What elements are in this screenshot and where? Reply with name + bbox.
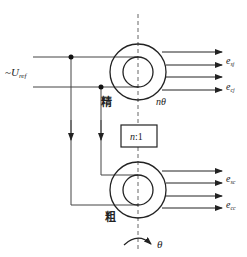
output-e-cc: ecc	[226, 199, 236, 211]
gear-ratio-label: n:1	[130, 131, 143, 142]
dual-channel-resolver-diagram: ~Uref 精 nθ esj ecj n:1 粗	[0, 0, 247, 257]
fine-label: 精	[101, 95, 112, 109]
junction-dot	[69, 55, 74, 60]
rotation-angle-label: θ	[157, 238, 163, 250]
output-e-sc: esc	[226, 173, 236, 185]
coarse-output-arrows	[162, 171, 222, 208]
coarse-label: 粗	[105, 210, 116, 224]
output-e-sj: esj	[226, 55, 235, 67]
speed-label: nθ	[156, 96, 166, 107]
junction-dot	[99, 85, 104, 90]
input-label: ~Uref	[5, 66, 27, 80]
output-e-cj: ecj	[226, 81, 235, 93]
fine-output-arrows	[162, 52, 222, 90]
